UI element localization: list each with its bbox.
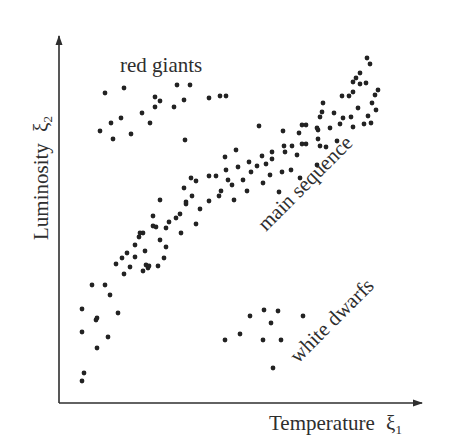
data-point [276, 309, 281, 314]
data-point [365, 56, 370, 61]
data-point [143, 249, 148, 254]
data-point [108, 293, 113, 298]
data-point [178, 212, 183, 217]
data-point [95, 346, 100, 351]
data-point [172, 105, 177, 110]
x-axis-title: Temperature [269, 411, 375, 435]
data-point [217, 194, 222, 199]
data-point [364, 81, 369, 86]
data-point [175, 83, 180, 88]
data-point [351, 80, 356, 85]
data-point [245, 189, 250, 194]
data-point [122, 86, 127, 91]
x-axis-subscript: 1 [395, 422, 402, 437]
data-point [218, 94, 223, 99]
data-point [224, 94, 229, 99]
data-point [223, 155, 228, 160]
red-giants-points [98, 83, 229, 143]
data-point [264, 162, 269, 167]
data-point [119, 116, 124, 121]
data-point [198, 207, 203, 212]
data-point [236, 165, 241, 170]
data-point [137, 235, 142, 240]
data-point [351, 90, 356, 95]
data-point [114, 262, 119, 267]
data-point [148, 121, 153, 126]
data-point [188, 83, 193, 88]
data-point [354, 76, 359, 81]
data-point [214, 174, 219, 179]
data-point [184, 202, 189, 207]
data-point [349, 115, 354, 120]
data-point [368, 62, 373, 67]
data-point [358, 71, 363, 76]
data-point [332, 111, 337, 116]
data-point [174, 216, 179, 221]
data-point [281, 129, 286, 134]
data-point [138, 231, 143, 236]
data-point [151, 214, 156, 219]
y-axis-symbol: ξ [29, 123, 53, 132]
data-point [234, 148, 239, 153]
data-point [219, 189, 224, 194]
data-point [125, 251, 130, 256]
data-point [156, 264, 161, 269]
data-point [374, 108, 379, 113]
data-point [133, 243, 138, 248]
svg-text:Temperature ξ1: Temperature ξ1 [269, 411, 402, 437]
data-point [301, 314, 306, 319]
data-point [270, 150, 275, 155]
data-point [255, 164, 260, 169]
data-point [271, 366, 276, 371]
data-point [164, 226, 169, 231]
data-point [151, 224, 156, 229]
y-axis-label: Luminosity ξ2 [29, 116, 55, 240]
x-axis-symbol: ξ [386, 411, 395, 435]
data-point [194, 179, 199, 184]
data-point [129, 132, 134, 137]
hr-diagram: Luminosity ξ2 Temperature ξ1 red giants … [0, 0, 451, 447]
main-sequence-label: main sequence [253, 131, 358, 236]
data-point [116, 311, 121, 316]
data-point [207, 199, 212, 204]
data-point [98, 129, 103, 134]
data-point [358, 82, 363, 87]
data-point [106, 335, 111, 340]
data-point [230, 183, 235, 188]
data-point [338, 122, 343, 127]
data-point [80, 379, 85, 384]
data-point [207, 174, 212, 179]
data-point [133, 255, 138, 260]
data-point [162, 256, 167, 261]
data-point [140, 111, 145, 116]
data-point [260, 154, 265, 159]
data-point [341, 116, 346, 121]
diagram-canvas: Luminosity ξ2 Temperature ξ1 red giants … [0, 0, 451, 447]
data-point [247, 160, 252, 165]
data-point [304, 123, 309, 128]
data-point [80, 330, 85, 335]
data-point [270, 157, 275, 162]
data-point [304, 142, 309, 147]
data-point [320, 110, 325, 115]
data-point [347, 94, 352, 99]
data-point [261, 338, 266, 343]
data-point [351, 125, 356, 130]
data-point [223, 338, 228, 343]
data-point [376, 88, 381, 93]
data-point [226, 178, 231, 183]
scatter-points [80, 56, 381, 384]
data-point [224, 168, 229, 173]
data-point [158, 198, 163, 203]
data-point [362, 122, 367, 127]
data-point [356, 106, 361, 111]
data-point [182, 98, 187, 103]
red-giants-label: red giants [120, 53, 202, 77]
data-point [280, 170, 285, 175]
data-point [257, 124, 262, 129]
data-point [232, 198, 237, 203]
data-point [248, 314, 253, 319]
data-point [158, 99, 163, 104]
data-point [128, 265, 133, 270]
data-point [295, 153, 300, 158]
